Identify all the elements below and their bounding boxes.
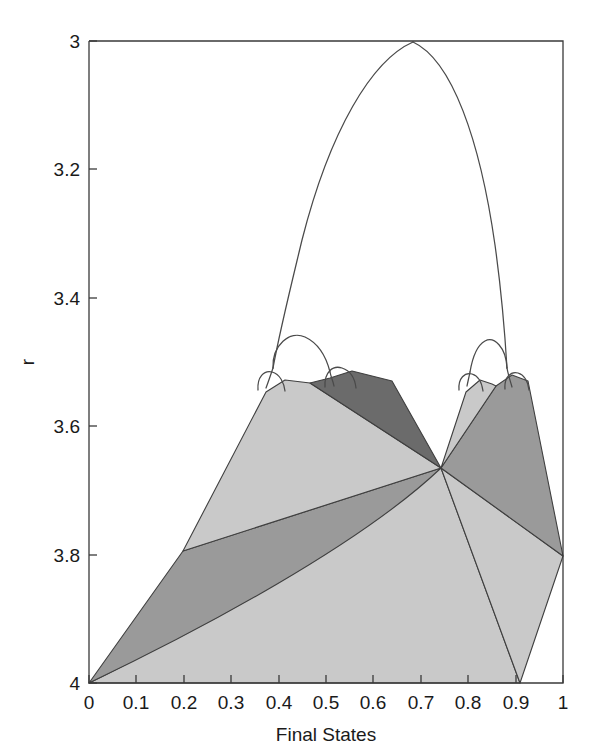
x-tick-label-2: 0.2 bbox=[171, 692, 197, 713]
y-tick-label-1: 3.2 bbox=[54, 159, 80, 180]
x-tick-label-3: 0.3 bbox=[218, 692, 244, 713]
x-tick-label-1: 0.1 bbox=[123, 692, 149, 713]
y-axis-title: r bbox=[17, 358, 38, 365]
y-tick-label-5: 4 bbox=[69, 673, 80, 694]
x-tick-label-0: 0 bbox=[84, 692, 95, 713]
y-tick-label-3: 3.6 bbox=[54, 416, 80, 437]
x-tick-label-5: 0.5 bbox=[313, 692, 339, 713]
x-tick-label-10: 1 bbox=[558, 692, 569, 713]
y-tick-label-2: 3.4 bbox=[54, 288, 81, 309]
x-tick-label-4: 0.4 bbox=[266, 692, 293, 713]
bifurcation-diagram: 3 3.2 3.4 3.6 3.8 4 0 0.1 0.2 0.3 0.4 0.… bbox=[0, 0, 615, 753]
x-axis-title: Final States bbox=[276, 724, 376, 745]
x-tick-label-9: 0.9 bbox=[503, 692, 529, 713]
x-tick-label-8: 0.8 bbox=[455, 692, 481, 713]
x-tick-label-6: 0.6 bbox=[360, 692, 386, 713]
x-tick-label-7: 0.7 bbox=[408, 692, 434, 713]
y-tick-label-4: 3.8 bbox=[54, 545, 80, 566]
y-tick-label-0: 3 bbox=[69, 31, 80, 52]
